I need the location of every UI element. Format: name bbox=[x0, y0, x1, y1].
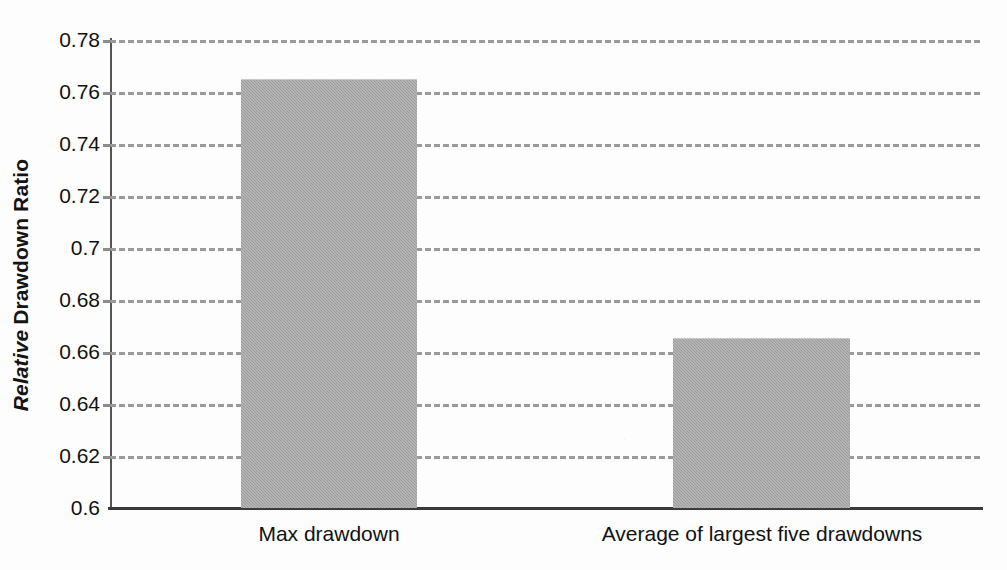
bar bbox=[241, 79, 417, 508]
x-axis-category-label: Max drawdown bbox=[258, 522, 399, 546]
y-axis-tick-label: 0.6 bbox=[0, 496, 100, 520]
y-axis-tick-label: 0.76 bbox=[0, 80, 100, 104]
y-axis-tick-mark bbox=[103, 404, 111, 407]
y-axis-tick-label: 0.7 bbox=[0, 236, 100, 260]
x-axis-category-label: Average of largest five drawdowns bbox=[602, 522, 923, 546]
plot-area bbox=[110, 40, 980, 508]
y-axis-tick-label: 0.64 bbox=[0, 392, 100, 416]
y-axis-tick-mark bbox=[103, 248, 111, 251]
y-axis-tick-mark bbox=[103, 196, 111, 199]
y-axis-tick-label: 0.74 bbox=[0, 132, 100, 156]
y-axis-tick-label: 0.68 bbox=[0, 288, 100, 312]
y-axis-tick-label: 0.62 bbox=[0, 444, 100, 468]
gridline bbox=[110, 40, 980, 43]
y-axis-tick-label: 0.72 bbox=[0, 184, 100, 208]
y-axis-tick-mark bbox=[103, 92, 111, 95]
y-axis-tick-labels: 0.780.760.740.720.70.680.660.640.620.6 bbox=[0, 0, 100, 570]
y-axis-tick-mark bbox=[103, 144, 111, 147]
y-axis-tick-mark bbox=[103, 300, 111, 303]
y-axis-tick-mark bbox=[103, 352, 111, 355]
y-axis-tick-label: 0.78 bbox=[0, 28, 100, 52]
bar-chart-figure: RelativeDrawdown Ratio 0.780.760.740.720… bbox=[0, 0, 1007, 570]
y-axis-tick-mark bbox=[103, 40, 111, 43]
y-axis-tick-label: 0.66 bbox=[0, 340, 100, 364]
bar bbox=[673, 338, 850, 508]
y-axis-tick-mark bbox=[103, 456, 111, 459]
